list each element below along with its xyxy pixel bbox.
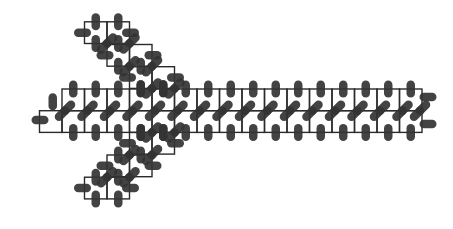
particle-pill <box>114 190 123 207</box>
particle-pill <box>204 81 213 98</box>
particle-pill <box>339 124 348 141</box>
particle-pill <box>317 81 326 98</box>
arrow-lattice-diagram <box>0 0 453 229</box>
particle-pill <box>384 124 393 141</box>
particle-pill <box>407 124 416 141</box>
particle-pill <box>227 81 236 98</box>
particle-pill <box>114 13 123 30</box>
particle-pill <box>204 124 213 141</box>
particle-pill <box>227 124 236 141</box>
particle-pill <box>249 81 258 98</box>
particle-pill <box>74 28 91 37</box>
particle-pill <box>119 73 136 82</box>
particle-pill <box>420 93 437 102</box>
particle-pill <box>272 124 281 141</box>
particle-pill <box>92 13 101 30</box>
particle-pill <box>69 124 78 141</box>
particle-pill <box>74 184 91 193</box>
particle-pill <box>69 81 78 98</box>
particle-pill <box>92 81 101 98</box>
particle-pill <box>420 120 437 129</box>
particle-pill <box>407 81 416 98</box>
particle-pill <box>317 124 326 141</box>
particle-pill <box>32 116 49 125</box>
particle-pill <box>92 124 101 141</box>
particle-pill <box>384 81 393 98</box>
particle-pill <box>92 190 101 207</box>
particle-pill <box>362 124 371 141</box>
particle-pill <box>294 81 303 98</box>
particle-pill <box>114 81 123 98</box>
particle-pill <box>362 81 371 98</box>
particle-pill <box>339 81 348 98</box>
particle-pill <box>97 51 114 60</box>
particle-pill <box>49 93 58 110</box>
particle-pill <box>272 81 281 98</box>
particle-pill <box>294 124 303 141</box>
particle-pill <box>249 124 258 141</box>
particle-pill <box>114 124 123 141</box>
